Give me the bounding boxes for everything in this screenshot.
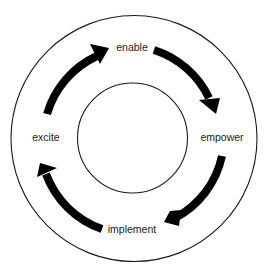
stage-label-implement: implement <box>108 223 157 235</box>
stage-label-empower: empower <box>200 131 244 143</box>
arrow-enable-to-empower <box>154 50 220 114</box>
stage-label-excite: excite <box>32 131 60 143</box>
inner-circle <box>78 83 188 193</box>
cycle-diagram: enable empower implement excite <box>0 0 266 272</box>
arrow-excite-to-enable <box>47 44 109 114</box>
arrow-empower-to-implement <box>164 156 222 226</box>
stage-label-enable: enable <box>116 41 148 53</box>
arrow-implement-to-excite <box>37 163 102 229</box>
